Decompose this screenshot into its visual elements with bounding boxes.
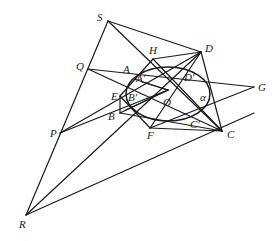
- label-B: B: [108, 110, 115, 122]
- label-D-prime: D': [183, 71, 195, 83]
- label-C-prime: C': [190, 118, 200, 130]
- line-segments: [26, 21, 254, 215]
- label-P: P: [49, 127, 57, 139]
- label-B-prime: B': [128, 91, 138, 103]
- label-alpha: α: [200, 91, 206, 103]
- label-F: F: [146, 129, 154, 141]
- label-S: S: [97, 11, 103, 23]
- geometry-diagram: S D H Q A A' D' G E B' O α B C' F C P R: [0, 0, 280, 241]
- segment-SR: [26, 21, 108, 215]
- label-C: C: [227, 128, 235, 140]
- label-O: O: [163, 96, 171, 108]
- point-labels: S D H Q A A' D' G E B' O α B C' F C P R: [18, 11, 266, 230]
- label-A: A: [122, 63, 130, 75]
- label-D: D: [204, 42, 213, 54]
- label-H: H: [148, 44, 158, 56]
- label-A-prime: A': [135, 72, 146, 84]
- label-Q: Q: [76, 60, 84, 72]
- label-R: R: [18, 218, 26, 230]
- label-G: G: [258, 81, 266, 93]
- label-E: E: [110, 90, 118, 102]
